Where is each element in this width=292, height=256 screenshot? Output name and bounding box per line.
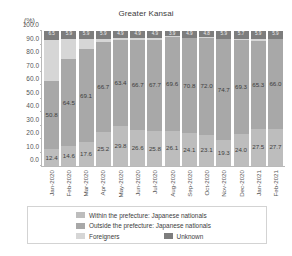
- bar-segment: [44, 40, 59, 81]
- bar-value-label: 66.7: [97, 84, 109, 90]
- bar-value-label: 50.8: [46, 112, 58, 118]
- bar-column[interactable]: 5.966.027.7: [268, 31, 283, 166]
- x-tick-label: Apr-2020: [99, 170, 106, 195]
- bar-value-label: 63.4: [114, 80, 126, 86]
- x-tick: Feb-2020: [60, 168, 75, 208]
- legend-swatch-foreigners: [76, 233, 85, 239]
- bar-column[interactable]: 5.964.514.6: [61, 31, 76, 166]
- x-tick: May-2020: [112, 168, 127, 208]
- bar-segment: 66.0: [268, 39, 283, 128]
- bar-segment: 66.7: [96, 42, 111, 132]
- bar-value-label: 4.9: [117, 32, 123, 37]
- bar-value-label: 4.9: [186, 32, 192, 37]
- bar-column[interactable]: 6.550.812.4: [44, 31, 59, 166]
- x-tick: Apr-2020: [95, 168, 110, 208]
- x-axis-labels: Jan-2020Feb-2020Mar-2020Apr-2020May-2020…: [41, 168, 285, 208]
- chart-container: Greater Kansai (%) 0.010.020.030.040.050…: [0, 0, 292, 256]
- bar-column[interactable]: 4.970.824.1: [182, 31, 197, 166]
- legend-label-unknown: Unknown: [177, 233, 204, 240]
- y-tick-label: 0.0: [30, 156, 39, 163]
- x-tick: Mar-2020: [78, 168, 93, 208]
- legend-label-within: Within the prefecture: Japanese national…: [89, 212, 207, 219]
- y-tick-label: 50.0: [26, 88, 39, 95]
- legend-label-foreigners: Foreigners: [89, 233, 120, 240]
- x-tick: Jan-2020: [43, 168, 58, 208]
- bar-value-label: 26.6: [132, 145, 144, 151]
- bar-segment: 74.7: [216, 39, 231, 140]
- bar-column[interactable]: 5.966.725.2: [96, 31, 111, 166]
- bar-value-label: 5.9: [255, 32, 261, 37]
- bar-segment: 70.8: [182, 38, 197, 134]
- bar-value-label: 26.1: [166, 145, 178, 151]
- bar-value-label: 27.7: [269, 144, 281, 150]
- y-tick-label: 70.0: [26, 61, 39, 68]
- bar-value-label: 6.5: [48, 32, 54, 37]
- bar-value-label: 66.7: [132, 82, 144, 88]
- bar-segment: 26.1: [165, 131, 180, 166]
- bar-segment: 12.4: [44, 149, 59, 166]
- x-tick: Nov-2020: [216, 168, 231, 208]
- x-tick-label: Feb-2020: [64, 170, 71, 197]
- x-tick-label: Sep-2020: [185, 170, 192, 197]
- plot-area: 0.010.020.030.040.050.060.070.080.090.01…: [41, 31, 285, 167]
- bar-column[interactable]: 4.967.725.8: [147, 31, 162, 166]
- y-tick-label: 80.0: [26, 48, 39, 55]
- bar-value-label: 5.9: [272, 32, 278, 37]
- bar-value-label: 69.6: [166, 81, 178, 87]
- bar-column[interactable]: 4.963.429.8: [113, 31, 128, 166]
- bar-segment: 24.1: [182, 133, 197, 166]
- bar-segment: 69.6: [165, 37, 180, 131]
- y-tick-label: 100.0: [23, 21, 39, 28]
- bar-segment: 4.9: [130, 31, 145, 38]
- bar-segment: 72.0: [199, 38, 214, 135]
- x-tick: Oct-2020: [199, 168, 214, 208]
- x-tick-label: Jan-2020: [47, 170, 54, 196]
- bar-value-label: 5.7: [238, 32, 244, 37]
- chart-legend: Within the prefecture: Japanese national…: [27, 206, 267, 244]
- bar-value-label: 69.3: [235, 84, 247, 90]
- x-tick-label: Feb-2021: [272, 170, 279, 197]
- bar-value-label: 5.9: [83, 32, 89, 37]
- bar-segment: 29.8: [113, 126, 128, 166]
- bar-value-label: 64.5: [63, 100, 75, 106]
- bar-segment: 66.7: [130, 40, 145, 130]
- bar-series-group: 6.550.812.45.964.514.65.969.117.65.966.7…: [42, 31, 285, 166]
- bar-column[interactable]: 5.974.719.3: [216, 31, 231, 166]
- bar-segment: 25.8: [147, 131, 162, 166]
- bar-segment: 14.6: [61, 146, 76, 166]
- bar-value-label: 65.3: [252, 82, 264, 88]
- bar-segment: 23.1: [199, 135, 214, 166]
- bar-segment: [79, 39, 94, 49]
- bar-value-label: 74.7: [218, 86, 230, 92]
- bar-column[interactable]: 4.872.023.1: [199, 31, 214, 166]
- bar-segment: 26.6: [130, 130, 145, 166]
- bar-value-label: 5.9: [100, 32, 106, 37]
- y-tick-label: 10.0: [26, 142, 39, 149]
- bar-segment: 17.6: [79, 142, 94, 166]
- legend-swatch-unknown: [164, 233, 173, 239]
- bar-column[interactable]: 5.969.117.6: [79, 31, 94, 166]
- bar-segment: 5.9: [79, 31, 94, 39]
- legend-row-2: Outside the prefecture: Japanese nationa…: [28, 221, 266, 232]
- bar-segment: 5.9: [251, 31, 266, 39]
- bar-value-label: 5.9: [66, 32, 72, 37]
- x-tick-label: Dec-2020: [237, 170, 244, 197]
- bar-segment: 69.1: [79, 49, 94, 142]
- x-tick: Aug-2020: [164, 168, 179, 208]
- bar-column[interactable]: 5.769.324.0: [234, 31, 249, 166]
- bar-column[interactable]: 5.965.327.5: [251, 31, 266, 166]
- bar-column[interactable]: 3.969.626.1: [165, 31, 180, 166]
- bar-value-label: 69.1: [80, 92, 92, 98]
- legend-row-3: Foreigners Unknown: [28, 231, 266, 242]
- bar-column[interactable]: 4.966.726.6: [130, 31, 145, 166]
- y-tick-label: 30.0: [26, 115, 39, 122]
- bar-value-label: 5.9: [221, 32, 227, 37]
- bar-value-label: 23.1: [201, 147, 213, 153]
- bar-value-label: 25.8: [149, 145, 161, 151]
- y-tick-label: 60.0: [26, 75, 39, 82]
- bar-segment: [61, 39, 76, 59]
- bar-value-label: 4.8: [203, 32, 209, 37]
- x-tick: Jan-2021: [250, 168, 265, 208]
- x-tick-label: Jun-2020: [134, 170, 141, 196]
- bar-value-label: 66.0: [269, 81, 281, 87]
